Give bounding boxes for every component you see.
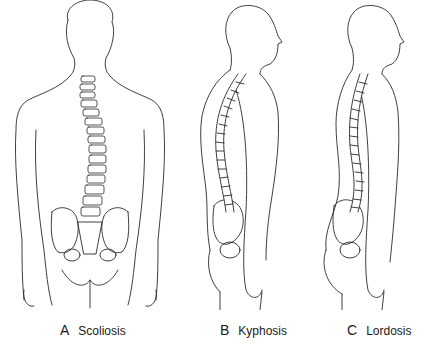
panel-kyphosis-illustration (180, 0, 302, 310)
caption-letter: A (60, 322, 69, 338)
caption-lordosis: CLordosis (347, 322, 411, 338)
caption-label: Scoliosis (78, 324, 125, 338)
caption-letter: C (347, 322, 357, 338)
spine-scoliosis (80, 76, 106, 216)
panel-lordosis-illustration (302, 0, 424, 310)
caption-scoliosis: AScoliosis (60, 322, 126, 338)
caption-label: Lordosis (366, 324, 411, 338)
caption-kyphosis: BKyphosis (220, 322, 287, 338)
spine-kyphosis (216, 74, 246, 212)
panel-scoliosis-illustration (0, 0, 180, 310)
caption-letter: B (220, 322, 229, 338)
spine-lordosis (349, 74, 368, 212)
caption-label: Kyphosis (238, 324, 287, 338)
